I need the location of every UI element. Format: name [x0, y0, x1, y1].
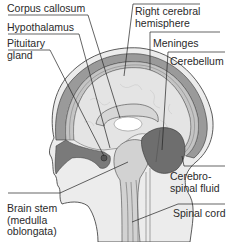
- brain-anatomy-diagram: Corpus callosum Hypothalamus Pituitary g…: [0, 0, 229, 242]
- label-meninges: Meninges: [153, 38, 199, 50]
- label-spinal-cord: Spinal cord: [173, 208, 226, 220]
- label-cerebellum: Cerebellum: [170, 56, 224, 68]
- label-cerebrospinal-fluid: Cerebro- spinal fluid: [170, 171, 220, 194]
- label-pituitary-gland: Pituitary gland: [7, 38, 45, 61]
- label-right-cerebral-hemisphere: Right cerebral hemisphere: [135, 6, 200, 29]
- label-hypothalamus: Hypothalamus: [7, 22, 74, 34]
- label-corpus-callosum: Corpus callosum: [7, 3, 85, 15]
- label-brain-stem: Brain stem (medulla oblongata): [7, 203, 57, 238]
